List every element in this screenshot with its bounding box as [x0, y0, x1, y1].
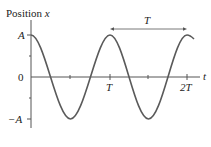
- chart: Position x A 0 −A t T 2T T: [0, 0, 211, 147]
- y-tick-label-A: A: [17, 29, 25, 41]
- period-label: T: [144, 14, 151, 26]
- x-axis-var: t: [203, 70, 207, 82]
- y-axis-title: Position x: [6, 7, 50, 19]
- x-tick-label-2T: 2T: [180, 81, 193, 93]
- y-tick-label-negA: −A: [8, 113, 22, 125]
- period-arrow-left-head: [110, 27, 114, 30]
- x-tick-label-T: T: [106, 81, 113, 93]
- y-tick-label-zero: 0: [18, 71, 24, 83]
- period-arrow-right-head: [183, 27, 187, 30]
